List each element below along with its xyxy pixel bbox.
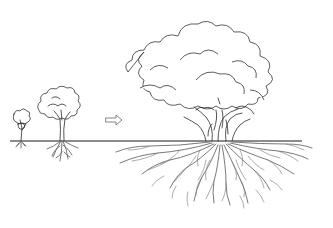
illustration-canvas (0, 0, 333, 228)
mature-canopy (126, 21, 273, 109)
mature-roots (116, 142, 312, 208)
mature-tree (116, 21, 312, 208)
tree-growth-illustration (0, 0, 333, 228)
young-tree-roots (47, 141, 78, 161)
outline-arrow-icon (106, 115, 122, 125)
seedling (13, 109, 30, 148)
seedling-roots (16, 141, 26, 148)
young-tree (38, 86, 81, 161)
